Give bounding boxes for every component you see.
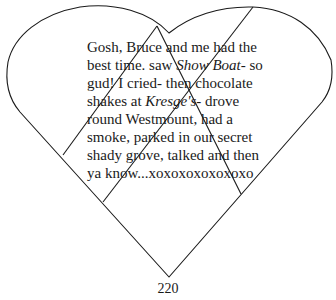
poem-title-italic: Kresge's xyxy=(145,93,196,109)
poem-line: shady grove, talked and then xyxy=(87,146,327,164)
poem-line: ya know...xoxoxoxoxoxoxo xyxy=(87,164,327,182)
poem-line: gud! I cried- then chocolate xyxy=(87,74,327,92)
poem-text-segment: - drove xyxy=(196,93,239,109)
poem-text: Gosh, Bruce and me had thebest time. saw… xyxy=(87,38,327,182)
poem-text-segment: best time. saw xyxy=(87,57,176,73)
poem-text-segment: shady grove, talked and then xyxy=(87,147,259,163)
page-number: 220 xyxy=(0,281,336,297)
poem-text-segment: - so xyxy=(241,57,263,73)
poem-line: round Westmount, had a xyxy=(87,110,327,128)
poem-text-segment: ya know...xoxoxoxoxoxoxo xyxy=(87,165,254,181)
poem-text-segment: gud! I cried- then chocolate xyxy=(87,75,253,91)
poem-text-segment: shakes at xyxy=(87,93,145,109)
poem-text-segment: smoke, parked in our secret xyxy=(87,129,252,145)
poem-line: best time. saw Show Boat- so xyxy=(87,56,327,74)
poem-title-italic: Show Boat xyxy=(176,57,241,73)
poem-text-segment: Gosh, Bruce and me had the xyxy=(87,39,257,55)
poem-line: shakes at Kresge's- drove xyxy=(87,92,327,110)
book-page: Gosh, Bruce and me had thebest time. saw… xyxy=(0,0,336,300)
poem-line: Gosh, Bruce and me had the xyxy=(87,38,327,56)
poem-line: smoke, parked in our secret xyxy=(87,128,327,146)
poem-text-segment: round Westmount, had a xyxy=(87,111,233,127)
